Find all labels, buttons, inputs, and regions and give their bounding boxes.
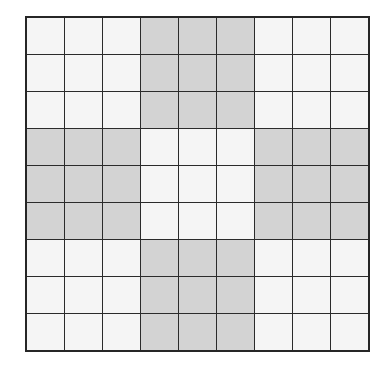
grid-row [26,277,369,314]
grid-cell [217,314,255,351]
grid-cell [255,17,293,54]
grid-cell [64,277,102,314]
grid-cell [255,240,293,277]
grid-cell [26,203,64,240]
grid-cell [331,17,369,54]
grid-cell [64,91,102,128]
grid-cell [331,277,369,314]
grid-cell [140,314,178,351]
grid-cell [331,240,369,277]
grid-cell [293,277,331,314]
grid-cell [217,240,255,277]
grid-cell [140,240,178,277]
grid-cell [217,54,255,91]
grid-cell [102,54,140,91]
grid-cell [64,54,102,91]
grid-cell [331,54,369,91]
grid-cell [140,128,178,165]
grid-row [26,54,369,91]
grid-cell [26,277,64,314]
grid-cell [140,54,178,91]
grid-body [26,17,369,351]
grid-cell [26,91,64,128]
grid-cell [64,17,102,54]
grid-cell [64,128,102,165]
grid-cell [331,165,369,202]
grid-cell [178,91,216,128]
grid-cell [64,314,102,351]
grid-cell [140,17,178,54]
grid-cell [64,165,102,202]
grid-cell [293,128,331,165]
grid-cell [178,165,216,202]
grid-cell [255,277,293,314]
grid-cell [26,54,64,91]
grid-table [25,16,370,352]
grid-cell [178,54,216,91]
grid-cell [140,277,178,314]
grid-row [26,240,369,277]
grid-cell [178,128,216,165]
grid-cell [140,165,178,202]
grid-cell [102,277,140,314]
grid-cell [178,203,216,240]
grid-cell [217,17,255,54]
grid-cell [331,128,369,165]
grid-cell [102,91,140,128]
grid-cell [26,314,64,351]
grid-cell [217,91,255,128]
grid-cell [255,54,293,91]
grid-cell [26,128,64,165]
grid-cell [331,91,369,128]
grid-cell [217,128,255,165]
grid-row [26,165,369,202]
grid-row [26,128,369,165]
grid-cell [255,314,293,351]
grid-cell [140,203,178,240]
grid-cell [26,17,64,54]
grid-cell [26,240,64,277]
grid-cell [293,54,331,91]
grid-cell [102,314,140,351]
grid-cell [293,240,331,277]
grid-cell [102,17,140,54]
grid-cell [255,128,293,165]
grid-cell [26,165,64,202]
grid-cell [293,314,331,351]
grid-cell [331,203,369,240]
grid-cell [102,128,140,165]
grid-cell [102,203,140,240]
grid-cell [217,203,255,240]
grid-cell [64,203,102,240]
grid-cell [178,314,216,351]
grid-cell [331,314,369,351]
grid-cell [64,240,102,277]
grid-cell [217,165,255,202]
grid-cell [293,203,331,240]
grid-cell [102,165,140,202]
grid-cell [178,17,216,54]
grid-cell [255,203,293,240]
grid-row [26,91,369,128]
grid-row [26,17,369,54]
grid-row [26,203,369,240]
grid-row [26,314,369,351]
grid-cell [140,91,178,128]
grid-cell [178,277,216,314]
grid-cell [255,91,293,128]
grid-cell [293,91,331,128]
grid-cell [102,240,140,277]
grid-cell [178,240,216,277]
grid-cell [255,165,293,202]
grid-cell [217,277,255,314]
grid-cell [293,17,331,54]
grid-figure [25,16,370,352]
grid-cell [293,165,331,202]
